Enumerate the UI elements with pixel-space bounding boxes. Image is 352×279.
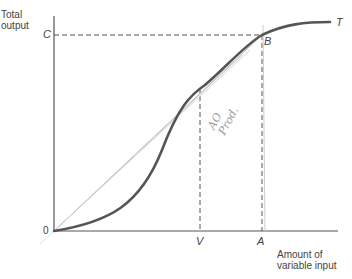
ray-faint-2 bbox=[54, 50, 250, 231]
x-axis-label: Amount of variable input bbox=[277, 249, 336, 271]
hand-vertical-line bbox=[263, 25, 265, 231]
a-tick-label: A bbox=[257, 236, 264, 247]
c-tick-label: C bbox=[43, 29, 51, 40]
total-product-curve bbox=[54, 22, 330, 231]
origin-label: 0 bbox=[43, 225, 49, 236]
b-point-label: B bbox=[264, 36, 271, 47]
t-curve-label: T bbox=[336, 17, 343, 28]
y-axis-label: Total output bbox=[1, 9, 29, 31]
v-tick-label: V bbox=[196, 236, 203, 247]
production-diagram bbox=[0, 0, 352, 279]
